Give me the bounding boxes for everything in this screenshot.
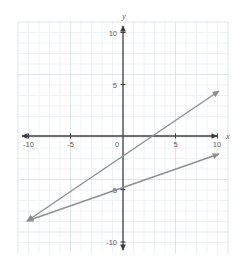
y-tick-label-5: 5: [113, 81, 117, 90]
y-tick-label-10: 10: [109, 29, 117, 38]
y-axis-name: y: [121, 11, 126, 21]
x-axis-name: x: [225, 131, 230, 141]
x-tick-label-10: 10: [213, 140, 221, 149]
origin-label: 0: [115, 140, 119, 149]
y-tick-label-neg10: -10: [106, 238, 117, 247]
x-tick-label-neg10: -10: [23, 140, 34, 149]
x-tick-label-neg5: -5: [67, 140, 74, 149]
coordinate-plane-figure: -10 -5 5 10 0 10 5 -5 -10 x y: [0, 0, 245, 266]
x-tick-label-5: 5: [173, 140, 177, 149]
graph-canvas: -10 -5 5 10 0 10 5 -5 -10 x y: [0, 0, 245, 266]
y-tick-label-neg5: -5: [110, 186, 117, 195]
